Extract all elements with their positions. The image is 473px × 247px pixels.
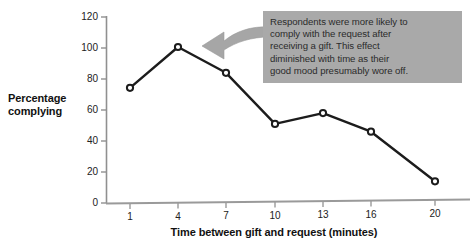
x-tick-label-20: 20 (424, 208, 446, 219)
annotation-textbox: Respondents were more likely to comply w… (263, 11, 462, 83)
x-tick-label-10: 10 (264, 210, 286, 221)
data-point (175, 44, 181, 50)
x-tick-label-4: 4 (167, 211, 189, 222)
data-point (127, 85, 133, 91)
annotation-line-2: comply with the request after (270, 28, 455, 40)
y-axis-ticks (101, 17, 106, 203)
data-point (272, 121, 278, 127)
data-point (432, 178, 438, 184)
annotation-line-1: Respondents were more likely to (270, 16, 455, 28)
annotation-line-4: diminished with time as their (270, 53, 455, 65)
annotation-line-3: receiving a gift. This effect (270, 40, 455, 52)
y-tick-label-40: 40 (72, 135, 98, 146)
annotation-arrow-icon (196, 24, 270, 66)
x-tick-label-16: 16 (360, 209, 382, 220)
chart-figure: Percentage complying (0, 0, 473, 247)
y-tick-label-80: 80 (72, 73, 98, 84)
x-axis-line (106, 200, 470, 204)
data-point (223, 70, 229, 76)
x-tick-label-13: 13 (312, 209, 334, 220)
x-axis-title: Time between gift and request (minutes) (104, 226, 444, 238)
y-tick-label-120: 120 (72, 11, 98, 22)
y-tick-label-60: 60 (72, 104, 98, 115)
y-tick-label-100: 100 (72, 42, 98, 53)
x-tick-label-7: 7 (215, 210, 237, 221)
y-tick-label-20: 20 (72, 166, 98, 177)
data-point (320, 110, 326, 116)
x-tick-label-1: 1 (119, 211, 141, 222)
y-tick-label-0: 0 (72, 197, 98, 208)
annotation-line-5: good mood presumably wore off. (270, 65, 455, 77)
data-point (368, 129, 374, 135)
